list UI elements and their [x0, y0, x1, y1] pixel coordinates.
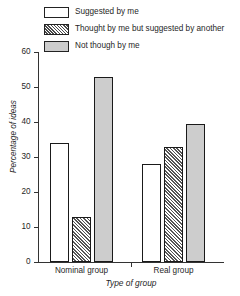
- x-axis-title: Type of group: [38, 278, 224, 288]
- y-axis-tick-label: 40: [21, 117, 30, 126]
- hatched-square-swatch-icon: [44, 24, 69, 35]
- plot-area: Percentage of ideas 0102030405060 Nomina…: [0, 46, 240, 296]
- bar-group-container: [38, 52, 224, 262]
- y-axis-tick-label: 10: [21, 222, 30, 231]
- y-axis-tick-label: 30: [21, 152, 30, 161]
- x-axis-group-separator-tick: [131, 262, 132, 267]
- bar: [94, 77, 113, 263]
- y-axis-tick-label: 20: [21, 187, 30, 196]
- y-axis-tick: 0: [34, 262, 39, 263]
- bar: [164, 147, 183, 263]
- open-square-swatch-icon: [44, 7, 69, 18]
- y-axis-tick-label: 0: [26, 257, 31, 266]
- y-axis-tick-label: 50: [21, 82, 30, 91]
- bar: [72, 217, 91, 263]
- x-axis-category-label: Real group: [153, 266, 193, 275]
- y-axis-title: Percentage of ideas: [9, 77, 18, 197]
- legend-label: Suggested by me: [75, 7, 139, 17]
- x-axis-category-label: Nominal group: [55, 266, 108, 275]
- bar: [50, 143, 69, 262]
- legend-label: Thought by me but suggested by another: [75, 24, 224, 34]
- bar: [186, 124, 205, 262]
- axes: 0102030405060 Nominal groupReal group: [38, 52, 226, 262]
- legend-item-suggested-by-me: Suggested by me: [44, 4, 240, 20]
- bar-chart-figure: Suggested by me Thought by me but sugges…: [0, 0, 240, 296]
- y-axis-tick-label: 60: [21, 47, 30, 56]
- legend-item-thought-by-me: Thought by me but suggested by another: [44, 21, 240, 37]
- bar: [142, 164, 161, 262]
